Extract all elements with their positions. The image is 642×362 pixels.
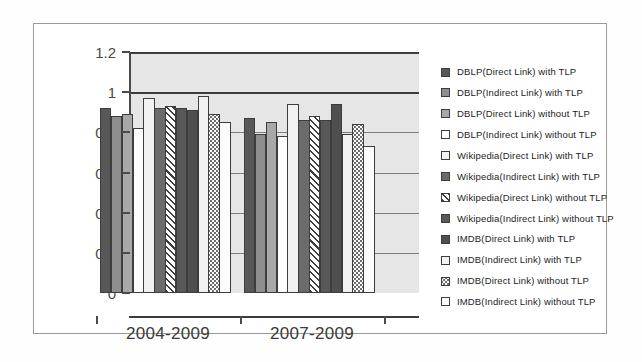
legend-item: DBLP(Indirect Link) without TLP — [441, 125, 597, 145]
figure-frame: 00.20.40.60.811.2 2004-20092007-2009 DBL… — [33, 23, 607, 334]
legend-swatch-icon — [441, 109, 450, 118]
bar — [331, 104, 342, 293]
x-axis-group-tick — [96, 316, 98, 324]
legend-swatch-icon — [441, 130, 450, 139]
bar — [219, 122, 230, 293]
x-axis-line — [129, 316, 419, 318]
bar — [143, 98, 154, 293]
legend-item: Wikipedia(Direct Link) without TLP — [441, 187, 607, 207]
y-axis-tick-label: 1.2 — [70, 45, 116, 60]
bar — [287, 104, 298, 293]
x-axis-group-tick — [240, 316, 242, 324]
bar — [111, 116, 122, 293]
bar — [198, 96, 209, 293]
legend-item-label: DBLP(Indirect Link) with TLP — [457, 88, 583, 98]
bar — [363, 146, 374, 293]
legend-swatch-icon — [441, 277, 450, 286]
bar — [320, 120, 331, 293]
y-axis-tick-label: 1 — [70, 85, 116, 100]
legend-item-label: IMDB(Direct Link) without TLP — [457, 276, 589, 286]
legend-item-label: DBLP(Indirect Link) without TLP — [457, 130, 597, 140]
legend-item-label: Wikipedia(Direct Link) without TLP — [457, 193, 607, 203]
gridline — [131, 92, 419, 94]
legend-swatch-icon — [441, 193, 450, 202]
bar — [208, 114, 219, 293]
legend-swatch-icon — [441, 151, 450, 160]
legend-swatch-icon — [441, 68, 450, 77]
legend-swatch-icon — [441, 172, 450, 181]
bar — [277, 136, 288, 293]
bar — [266, 122, 277, 293]
y-axis-tick-mark — [122, 292, 130, 294]
bar — [298, 120, 309, 293]
legend-item-label: Wikipedia(Direct Link) with TLP — [457, 151, 593, 161]
y-axis-tick-mark — [122, 252, 130, 254]
y-axis-tick-mark — [122, 172, 130, 174]
x-axis-group-tick — [384, 316, 386, 324]
bar — [100, 108, 111, 293]
bar — [309, 116, 320, 293]
legend-item: Wikipedia(Direct Link) with TLP — [441, 146, 593, 166]
bar — [154, 108, 165, 293]
bar — [255, 134, 266, 293]
bar — [352, 124, 363, 293]
chart-legend: DBLP(Direct Link) with TLPDBLP(Indirect … — [441, 62, 636, 314]
bar — [187, 110, 198, 293]
legend-item-label: IMDB(Indirect Link) without TLP — [457, 297, 596, 307]
legend-item-label: Wikipedia(Indirect Link) without TLP — [457, 214, 614, 224]
legend-item: DBLP(Direct Link) without TLP — [441, 104, 590, 124]
legend-swatch-icon — [441, 297, 450, 306]
legend-item: IMDB(Direct Link) without TLP — [441, 271, 589, 291]
legend-swatch-icon — [441, 256, 450, 265]
legend-swatch-icon — [441, 235, 450, 244]
legend-item: Wikipedia(Indirect Link) with TLP — [441, 167, 600, 187]
chart-figure: 00.20.40.60.811.2 2004-20092007-2009 DBL… — [0, 0, 642, 362]
legend-item: IMDB(Indirect Link) with TLP — [441, 250, 582, 270]
y-axis-tick-mark — [122, 212, 130, 214]
legend-item-label: DBLP(Direct Link) with TLP — [457, 67, 576, 77]
legend-swatch-icon — [441, 214, 450, 223]
legend-item: DBLP(Direct Link) with TLP — [441, 62, 576, 82]
legend-item-label: DBLP(Direct Link) without TLP — [457, 109, 590, 119]
legend-item: IMDB(Direct Link) with TLP — [441, 229, 575, 249]
bar — [165, 106, 176, 293]
bar — [342, 134, 353, 293]
legend-item: IMDB(Indirect Link) without TLP — [441, 292, 596, 312]
gridline — [131, 52, 419, 54]
legend-item: Wikipedia(Indirect Link) without TLP — [441, 208, 614, 228]
bar — [122, 114, 133, 293]
legend-item-label: IMDB(Indirect Link) with TLP — [457, 255, 582, 265]
bar — [244, 118, 255, 293]
y-axis-tick-mark — [122, 131, 130, 133]
x-axis-group-label: 2004-2009 — [96, 324, 240, 344]
legend-item: DBLP(Indirect Link) with TLP — [441, 83, 583, 103]
legend-item-label: IMDB(Direct Link) with TLP — [457, 234, 575, 244]
y-axis-tick-mark — [122, 51, 130, 53]
legend-item-label: Wikipedia(Indirect Link) with TLP — [457, 172, 600, 182]
y-axis-tick-mark — [122, 91, 130, 93]
bar — [176, 108, 187, 293]
legend-swatch-icon — [441, 88, 450, 97]
x-axis-group-label: 2007-2009 — [240, 324, 384, 344]
bar — [133, 128, 144, 293]
